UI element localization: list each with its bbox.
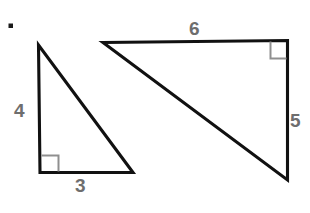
geometry-figure: 4 3 6 5 [0, 0, 310, 213]
bullet-dot-icon [9, 24, 14, 29]
large-triangle-outline [103, 41, 288, 181]
small-triangle-right-angle-mark [42, 156, 59, 172]
large-triangle-right-angle-mark [271, 42, 287, 59]
large-triangle-vertical-leg-label: 5 [290, 111, 301, 130]
large-right-triangle [103, 41, 288, 181]
small-triangle-horizontal-leg-label: 3 [75, 176, 86, 195]
small-right-triangle [39, 45, 134, 173]
small-triangle-vertical-leg-label: 4 [14, 101, 25, 120]
large-triangle-horizontal-leg-label: 6 [189, 19, 200, 38]
figure-canvas [0, 0, 310, 213]
small-triangle-outline [39, 45, 134, 173]
